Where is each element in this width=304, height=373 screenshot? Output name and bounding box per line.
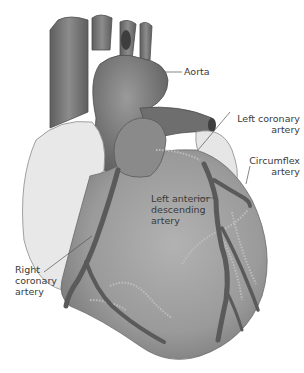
label-left-anterior-descending-artery: Left anterior descending artery xyxy=(151,193,210,226)
heart-illustration xyxy=(0,0,304,373)
label-line: artery xyxy=(230,124,300,135)
label-left-coronary-artery: Left coronary artery xyxy=(230,113,300,135)
label-line: Right xyxy=(15,264,57,275)
aortic-branch-3 xyxy=(140,22,152,60)
label-aorta: Aorta xyxy=(184,66,210,77)
label-line: Circumflex xyxy=(240,155,300,166)
label-circumflex-artery: Circumflex artery xyxy=(240,155,300,177)
label-right-coronary-artery: Right coronary artery xyxy=(15,264,57,297)
label-line: Left anterior xyxy=(151,193,210,204)
label-line: coronary xyxy=(15,275,57,286)
label-line: descending xyxy=(151,204,210,215)
aortic-branch-1 xyxy=(92,15,112,50)
heart-diagram: Aorta Left coronary artery Circumflex ar… xyxy=(0,0,304,373)
label-line: artery xyxy=(151,215,210,226)
label-line: Left coronary xyxy=(230,113,300,124)
label-line: artery xyxy=(15,286,57,297)
vessel-opening xyxy=(121,30,131,50)
superior-vena-cava xyxy=(50,17,88,128)
label-line: artery xyxy=(240,166,300,177)
